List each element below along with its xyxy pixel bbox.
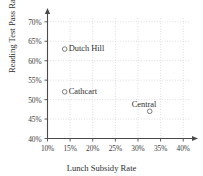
data-point-marker — [62, 90, 67, 95]
x-tick-label: 40% — [177, 144, 190, 153]
x-tick-label: 35% — [154, 144, 167, 153]
x-tick-label: 30% — [131, 144, 144, 153]
data-point-marker — [147, 109, 152, 114]
y-tick-label: 40% — [8, 134, 42, 143]
data-point-marker — [62, 47, 67, 52]
y-tick-label: 45% — [8, 115, 42, 124]
tick-marks — [45, 22, 184, 142]
y-axis-arrow-icon — [45, 8, 50, 14]
gridlines — [48, 18, 190, 139]
x-tick-label: 25% — [109, 144, 122, 153]
data-point-label: Cathcart — [69, 87, 97, 96]
y-tick-label: 50% — [8, 95, 42, 104]
x-axis-title: Lunch Subsidy Rate — [0, 163, 203, 173]
scatter-chart: 10%15%20%25%30%35%40% 40%45%50%55%60%65%… — [0, 0, 203, 176]
x-tick-label: 10% — [41, 144, 54, 153]
x-axis-arrow-icon — [192, 136, 198, 141]
x-tick-label: 15% — [63, 144, 76, 153]
y-axis-title: Reading Test Pass Rate — [7, 0, 17, 93]
plot-area — [0, 0, 203, 176]
axes — [45, 8, 198, 141]
x-tick-label: 20% — [86, 144, 99, 153]
data-point-label: Central — [132, 100, 157, 109]
data-point-label: Dutch Hill — [69, 44, 105, 53]
